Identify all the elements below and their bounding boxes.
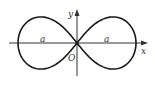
y-axis-arrow-icon [75,9,80,16]
right-segment-label: a [104,34,109,44]
origin-label: O [68,53,76,63]
lemniscate-diagram: y x O a a [0,0,155,85]
y-axis-label: y [67,9,74,19]
left-segment-label: a [40,34,45,44]
origin-point [75,41,78,44]
x-axis-label: x [141,46,146,56]
x-axis-arrow-icon [141,41,148,46]
